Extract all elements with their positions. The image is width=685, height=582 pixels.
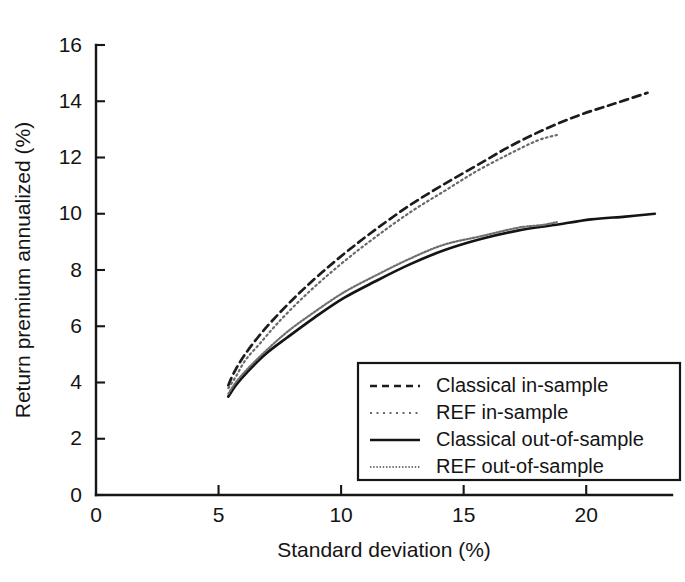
x-tick-label: 10 <box>329 503 352 526</box>
x-tick-label: 20 <box>575 503 598 526</box>
legend-label: REF in-sample <box>436 401 568 423</box>
x-axis-ticks: 05101520 <box>90 485 598 526</box>
y-tick-label: 2 <box>70 426 82 449</box>
x-tick-label: 5 <box>213 503 225 526</box>
y-tick-label: 8 <box>70 258 82 281</box>
y-tick-label: 14 <box>59 89 83 112</box>
y-tick-label: 10 <box>59 201 82 224</box>
legend-label: Classical out-of-sample <box>436 428 644 450</box>
y-tick-label: 16 <box>59 33 82 56</box>
chart-figure: 0246810121416 05101520 Return premium an… <box>0 0 685 582</box>
series-line-classical-in-sample <box>228 93 647 386</box>
y-tick-label: 12 <box>59 145 82 168</box>
y-tick-label: 6 <box>70 314 82 337</box>
x-tick-label: 0 <box>90 503 102 526</box>
chart-legend: Classical in-sampleREF in-sampleClassica… <box>358 363 680 480</box>
data-series <box>228 93 654 397</box>
legend-label: REF out-of-sample <box>436 455 604 477</box>
x-tick-label: 15 <box>452 503 475 526</box>
y-tick-label: 0 <box>70 483 82 506</box>
chart-canvas: 0246810121416 05101520 Return premium an… <box>0 0 685 582</box>
y-axis-ticks: 0246810121416 <box>59 33 105 506</box>
legend-label: Classical in-sample <box>436 374 608 396</box>
y-axis-title: Return premium annualized (%) <box>11 122 34 418</box>
series-line-ref-in-sample <box>228 135 556 388</box>
y-tick-label: 4 <box>70 370 82 393</box>
x-axis-title: Standard deviation (%) <box>277 538 491 561</box>
